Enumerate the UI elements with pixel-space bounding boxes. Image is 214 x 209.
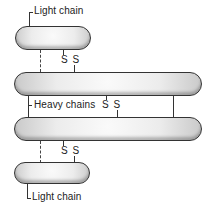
- heavy-chains-leader-tick: [28, 105, 32, 106]
- heavy-chain-2: [14, 117, 202, 141]
- heavy-chains-label: Heavy chains: [34, 99, 95, 110]
- disulfide-bond-bottom: S S: [61, 145, 79, 156]
- disulfide-line-heavy-b: [117, 110, 118, 117]
- label-leader-top-horizontal: [29, 12, 33, 13]
- heavy-chain-1: [14, 72, 202, 96]
- disulfide-line-top-b: [74, 65, 75, 72]
- light-chain-bottom-label: Light chain: [32, 191, 81, 202]
- light-chain-top: [15, 26, 91, 50]
- antibody-diagram: Light chain S S Heavy chains S S S S Lig…: [0, 0, 214, 209]
- disulfide-bond-heavy: S S: [102, 99, 120, 110]
- light-chain-bottom: [14, 162, 90, 184]
- interchain-link-top-dashed: [40, 50, 41, 72]
- label-leader-bottom-vertical: [27, 184, 28, 199]
- interchain-link-bottom-dashed: [40, 141, 41, 163]
- light-chain-top-label: Light chain: [34, 5, 83, 16]
- heavy-chain-link-right: [173, 95, 174, 118]
- heavy-chains-leader: [28, 96, 29, 117]
- disulfide-bond-top: S S: [61, 54, 79, 65]
- label-leader-bottom-horizontal: [27, 198, 31, 199]
